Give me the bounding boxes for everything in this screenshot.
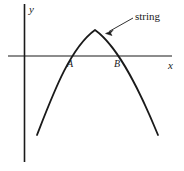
figure-canvas	[0, 0, 184, 171]
callout-label-string: string	[135, 11, 160, 22]
math-figure: y x A B string	[0, 0, 184, 171]
parabola-curve	[37, 30, 158, 135]
point-label-a: A	[67, 59, 73, 69]
point-label-b: B	[114, 59, 120, 69]
x-axis-label: x	[168, 60, 173, 71]
y-axis-label: y	[29, 4, 34, 15]
callout-leader-line	[109, 18, 133, 32]
